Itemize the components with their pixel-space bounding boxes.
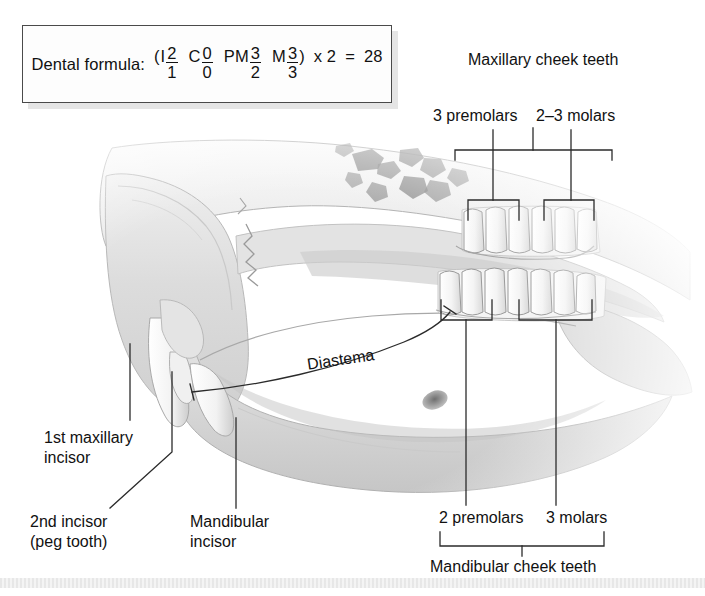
formula-open-paren: ( [154,47,160,66]
label-first-maxillary-incisor: 1st maxillary incisor [44,428,194,467]
scan-artifact-band [0,578,705,588]
formula-fraction-canine: 0 0 [202,45,213,81]
formula-premolar-lower: 2 [251,63,260,81]
formula-premolar-upper: 3 [250,45,261,63]
formula-incisor-lower: 1 [167,63,176,81]
formula-prefix: Dental formula: [32,55,145,74]
label-maxillary-cheek-teeth: Maxillary cheek teeth [468,50,618,70]
label-mandibular-incisor-line2: incisor [190,533,236,550]
formula-fraction-incisor: 2 1 [166,45,177,81]
formula-total: 28 [364,47,383,66]
formula-symbol-premolar: PM [224,47,249,66]
formula-molar-upper: 3 [287,45,298,63]
formula-fraction-premolar: 3 2 [250,45,261,81]
formula-symbol-molar: M [272,47,286,66]
label-second-incisor-line2: (peg tooth) [30,533,107,550]
formula-fraction-molar: 3 3 [287,45,298,81]
label-lower-premolars: 2 premolars [439,508,523,528]
formula-molar-lower: 3 [288,63,297,81]
formula-symbol-canine: C [189,47,201,66]
dental-formula-box: Dental formula: ( I 2 1 C 0 0 PM 3 [22,25,392,103]
label-mandibular-cheek-teeth: Mandibular cheek teeth [430,557,596,577]
formula-canine-lower: 0 [203,63,212,81]
label-mandibular-incisor-line1: Mandibular [190,513,269,530]
label-second-incisor-peg-tooth: 2nd incisor (peg tooth) [30,512,180,551]
formula-equals: = [345,47,355,66]
label-mandibular-incisor: Mandibular incisor [190,512,330,551]
label-lower-molars: 3 molars [546,508,607,528]
formula-canine-upper: 0 [202,45,213,63]
label-second-incisor-line1: 2nd incisor [30,513,107,530]
formula-multiplier: x 2 [314,47,336,66]
label-upper-molars: 2–3 molars [536,106,615,126]
label-upper-premolars: 3 premolars [433,106,517,126]
formula-close-paren: ) [299,47,305,66]
formula-symbol-incisor: I [161,47,166,66]
label-first-maxillary-incisor-line1: 1st maxillary [44,429,133,446]
formula-incisor-upper: 2 [166,45,177,63]
figure-canvas: Dental formula: ( I 2 1 C 0 0 PM 3 [0,0,705,596]
label-first-maxillary-incisor-line2: incisor [44,449,90,466]
